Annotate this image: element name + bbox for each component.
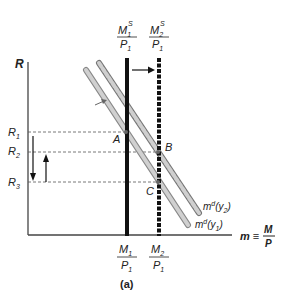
supply-label-top-1: M1 S P1 xyxy=(117,20,137,52)
svg-text:M1: M1 xyxy=(119,243,132,257)
y-axis-label: R xyxy=(15,57,24,71)
x-axis-label: m≡ M P xyxy=(240,224,275,249)
svg-text:P1: P1 xyxy=(153,259,164,273)
svg-text:M2: M2 xyxy=(151,243,164,257)
point-a-dot xyxy=(124,130,128,134)
svg-text:P: P xyxy=(265,238,272,249)
point-c-label: C xyxy=(146,185,154,197)
svg-text:P1: P1 xyxy=(152,38,163,52)
demand-y1-label: md(y1) xyxy=(195,218,223,232)
money-market-diagram: R R1 R2 R3 A B C md(y2) md(y1) M1 S P1 M… xyxy=(0,0,281,297)
supply-label-top-2: M2 S P1 xyxy=(149,20,169,52)
svg-text:S: S xyxy=(128,20,133,27)
svg-text:M: M xyxy=(264,224,273,235)
down-arrowhead xyxy=(30,173,36,181)
svg-text:m≡: m≡ xyxy=(240,230,259,242)
supply-shift-arrowhead xyxy=(148,67,155,74)
point-b-label: B xyxy=(165,141,172,153)
r3-label: R3 xyxy=(8,176,20,190)
point-b-dot xyxy=(156,150,160,154)
up-arrowhead xyxy=(43,154,49,162)
supply-label-bottom-1: M1 P1 xyxy=(117,243,137,273)
point-c-dot xyxy=(156,180,160,184)
svg-text:P1: P1 xyxy=(120,38,131,52)
r1-label: R1 xyxy=(8,126,20,140)
panel-label: (a) xyxy=(120,278,134,290)
svg-text:P1: P1 xyxy=(121,259,132,273)
r2-label: R2 xyxy=(8,145,20,159)
supply-label-bottom-2: M2 P1 xyxy=(149,243,169,273)
demand-y2-label: md(y2) xyxy=(203,200,231,214)
point-a-label: A xyxy=(112,133,120,145)
svg-text:S: S xyxy=(160,20,165,27)
